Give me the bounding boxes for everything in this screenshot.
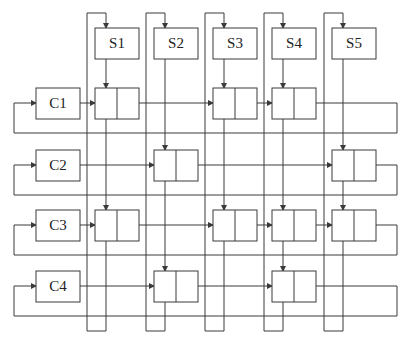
column-label-s4: S4 (286, 35, 302, 51)
column-label-s3: S3 (227, 35, 243, 51)
column-label-s5: S5 (346, 35, 362, 51)
column-label-s1: S1 (109, 35, 125, 51)
row-label-c3: C3 (49, 217, 67, 233)
row-label-c4: C4 (49, 278, 67, 294)
column-loop-s1 (87, 13, 106, 331)
column-loop-s3 (205, 13, 224, 331)
row-label-c2: C2 (49, 157, 67, 173)
row-label-c1: C1 (49, 95, 67, 111)
links (64, 43, 397, 331)
orthogonal-list-diagram: S1S2S3S4S5C1C2C3C4 (0, 0, 411, 339)
column-label-s2: S2 (168, 35, 184, 51)
